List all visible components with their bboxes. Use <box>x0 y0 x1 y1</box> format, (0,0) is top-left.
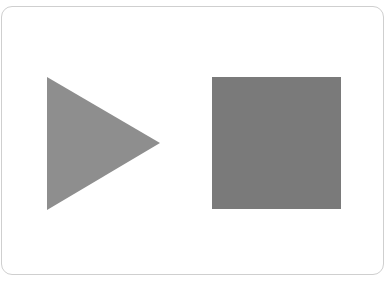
play-icon <box>47 77 160 210</box>
stop-button[interactable] <box>212 77 341 209</box>
play-button[interactable] <box>47 77 160 210</box>
stop-icon <box>212 77 341 209</box>
